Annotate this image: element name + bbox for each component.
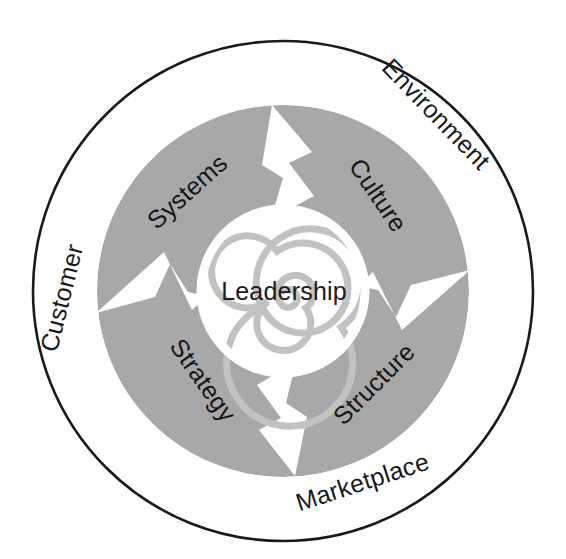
leadership-wheel-diagram: Customer Environment Marketplace Systems… [0,0,566,559]
center-label-leadership: Leadership [221,277,347,305]
wheel-svg: Customer Environment Marketplace Systems… [0,0,566,559]
